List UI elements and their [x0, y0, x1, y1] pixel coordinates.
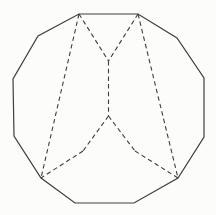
dodecagon-hidden-edges-diagram: [0, 0, 216, 215]
hidden-edge-v-left-edge: [79, 14, 109, 61]
geometry-figure: [0, 0, 216, 215]
hidden-edge-v-right-edge: [109, 14, 139, 61]
hidden-edge-left-bend-to-bottom-left: [41, 151, 83, 178]
hidden-edge-right-bend-to-bottom-right: [135, 151, 178, 178]
hidden-edge-center-to-left-bend: [83, 116, 109, 151]
hidden-edge-long-right-diagonal: [138, 14, 178, 178]
hidden-edge-long-left-diagonal: [41, 14, 79, 178]
hidden-edge-center-to-right-bend: [109, 116, 136, 151]
